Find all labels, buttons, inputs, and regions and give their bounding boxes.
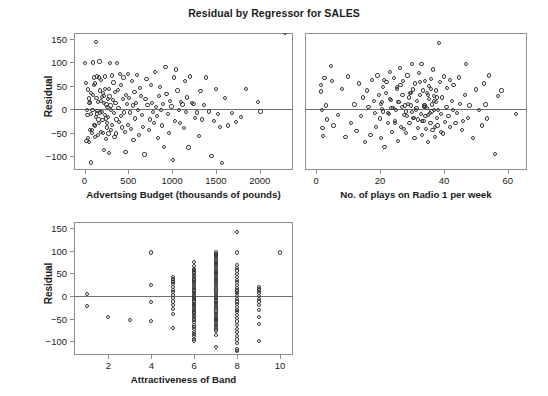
scatter-point [466,116,470,120]
scatter-point [388,70,392,74]
scatter-point [106,315,110,319]
scatter-point [160,123,164,127]
scatter-point [128,318,132,322]
scatter-point [87,140,91,144]
scatter-point [114,131,118,135]
scatter-point [102,148,106,152]
scatter-point [407,121,411,125]
scatter-point [180,102,184,106]
scatter-point [164,92,168,96]
scatter-point [448,78,452,82]
scatter-point [365,88,369,92]
x-tick-mark [508,170,509,174]
scatter-point [410,62,414,66]
scatter-point [453,121,457,125]
scatter-point [93,81,97,85]
scatter-point [161,102,165,106]
scatter-point [108,61,112,65]
scatter-point [214,317,218,321]
scatter-point [184,110,188,114]
scatter-point [329,64,333,68]
scatter-point [499,88,503,92]
scatter-point [230,111,234,115]
scatter-point [182,126,186,130]
scatter-point [325,117,329,121]
scatter-point [343,135,347,139]
scatter-point [183,79,187,83]
scatter-point [109,128,113,132]
scatter-point [428,121,432,125]
scatter-point [380,100,384,104]
scatter-point [258,109,262,113]
scatter-point [202,103,206,107]
scatter-point [426,140,430,144]
scatter-point [220,161,224,165]
x-tick-mark [108,355,109,359]
x-tick-mark [172,170,173,174]
scatter-point [125,102,129,106]
scatter-point [439,112,443,116]
x-tick-label: 1500 [205,175,226,186]
y-tick-label: −100 [46,150,67,161]
panel-attractiveness: 246810 −100−50050100150 Attractiveness o… [74,222,293,355]
y-axis-title: Residual [43,234,54,334]
scatter-point [209,154,213,158]
y-axis-title: Residual [43,47,54,147]
scatter-point [427,97,431,101]
scatter-point [106,115,110,119]
scatter-point [381,85,385,89]
scatter-point [446,114,450,118]
scatter-point [257,303,261,307]
scatter-point [235,341,239,345]
scatter-point [433,135,437,139]
x-tick-label: 2 [106,360,111,371]
y-tick-mark [70,251,74,252]
scatter-point [234,120,238,124]
scatter-point [94,40,98,44]
scatter-point [96,133,100,137]
y-tick-mark [70,109,74,110]
scatter-point [130,79,134,83]
scatter-point [214,253,218,257]
scatter-point [198,89,202,93]
scatter-point [110,73,114,77]
scatter-point [104,137,108,141]
scatter-point [112,111,116,115]
scatter-point [113,101,117,105]
y-tick-label: 100 [51,245,67,256]
scatter-point [185,95,189,99]
scatter-point [119,83,123,87]
scatter-point [136,108,140,112]
x-tick-mark [128,170,129,174]
scatter-point [413,81,417,85]
scatter-point [129,127,133,131]
scatter-point [398,66,402,70]
scatter-point [89,160,93,164]
scatter-point [480,123,484,127]
scatter-point [123,130,127,134]
scatter-point [354,129,358,133]
scatter-point [396,139,400,143]
scatter-point [368,133,372,137]
scatter-point [85,108,89,112]
scatter-point [145,103,149,107]
scatter-point [372,99,376,103]
scatter-point [121,97,125,101]
y-tick-label: 150 [51,34,67,45]
scatter-point [171,326,175,330]
scatter-point [214,328,218,332]
x-tick-mark [316,170,317,174]
x-tick-label: 8 [235,360,240,371]
scatter-point [97,59,101,63]
x-tick-label: 0 [314,175,319,186]
scatter-point [483,102,487,106]
scatter-point [417,71,421,75]
scatter-point [458,102,462,106]
scatter-point [366,105,370,109]
x-tick-mark [260,170,261,174]
scatter-point [320,126,324,130]
scatter-point [386,121,390,125]
x-tick-label: 4 [149,360,154,371]
scatter-point [349,121,353,125]
scatter-point [138,86,142,90]
